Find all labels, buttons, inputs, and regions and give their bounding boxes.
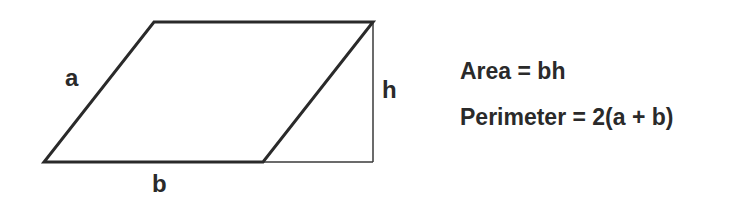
area-formula: Area = bh	[460, 58, 565, 85]
perimeter-formula: Perimeter = 2(a + b)	[460, 104, 674, 131]
side-a-label: a	[65, 64, 79, 91]
base-b-label: b	[152, 170, 167, 197]
height-h-label: h	[382, 76, 397, 103]
parallelogram-shape	[44, 22, 373, 162]
parallelogram-diagram: a h b	[0, 0, 730, 197]
